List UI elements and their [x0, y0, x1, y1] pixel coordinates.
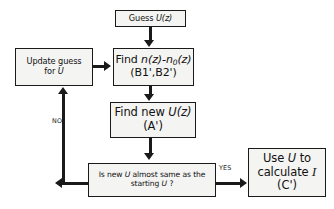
- flowchart-diagram: Guess U(z) Update guess for U Find n(z)-…: [0, 0, 334, 209]
- node-find-density-difference: Find n(z)-n0(z) (B1',B2'): [113, 48, 194, 86]
- node-find-new-u: Find new U(z) (A'): [110, 102, 196, 138]
- node-calculate-current: Use U to calculate I (C'): [248, 148, 326, 197]
- edge-findu-to-decision-arrowhead: [144, 153, 154, 160]
- edge-guess-to-findn-arrowhead: [144, 40, 154, 47]
- edge-update-to-findn-arrowhead: [104, 61, 111, 71]
- node-find-new-u-line-1: Find new U(z): [115, 106, 192, 120]
- node-convergence-check-line-2: starting U ?: [131, 180, 174, 189]
- edge-label-yes: YES: [219, 164, 232, 172]
- node-convergence-check: Is new U almost same as the starting U ?: [88, 163, 216, 197]
- edge-decision-to-update-arrowhead-up: [58, 87, 68, 94]
- edge-decision-to-update-vertical: [62, 94, 65, 183]
- edge-decision-to-update-horizontal: [62, 182, 89, 185]
- edge-decision-to-useu-arrowhead: [240, 178, 247, 188]
- node-find-density-difference-line-2: (B1',B2'): [130, 67, 176, 80]
- edge-label-no: NO: [52, 117, 62, 125]
- node-calculate-current-line-3: (C'): [277, 179, 297, 193]
- node-guess-u-line-1: Guess U(z): [129, 14, 172, 24]
- edge-decision-to-useu-line: [216, 182, 242, 185]
- edge-findn-to-findu-arrowhead: [144, 94, 154, 101]
- edge-decision-to-update-arrowhead-left: [55, 178, 62, 188]
- node-find-density-difference-line-1: Find n(z)-n0(z): [116, 54, 192, 67]
- node-find-new-u-line-2: (A'): [143, 120, 163, 134]
- node-update-guess-line-2: for U: [44, 67, 63, 77]
- node-calculate-current-line-1: Use U to: [263, 152, 311, 166]
- node-guess-u: Guess U(z): [115, 10, 186, 27]
- node-calculate-current-line-2: calculate I: [257, 166, 316, 180]
- node-update-guess: Update guess for U: [15, 48, 93, 86]
